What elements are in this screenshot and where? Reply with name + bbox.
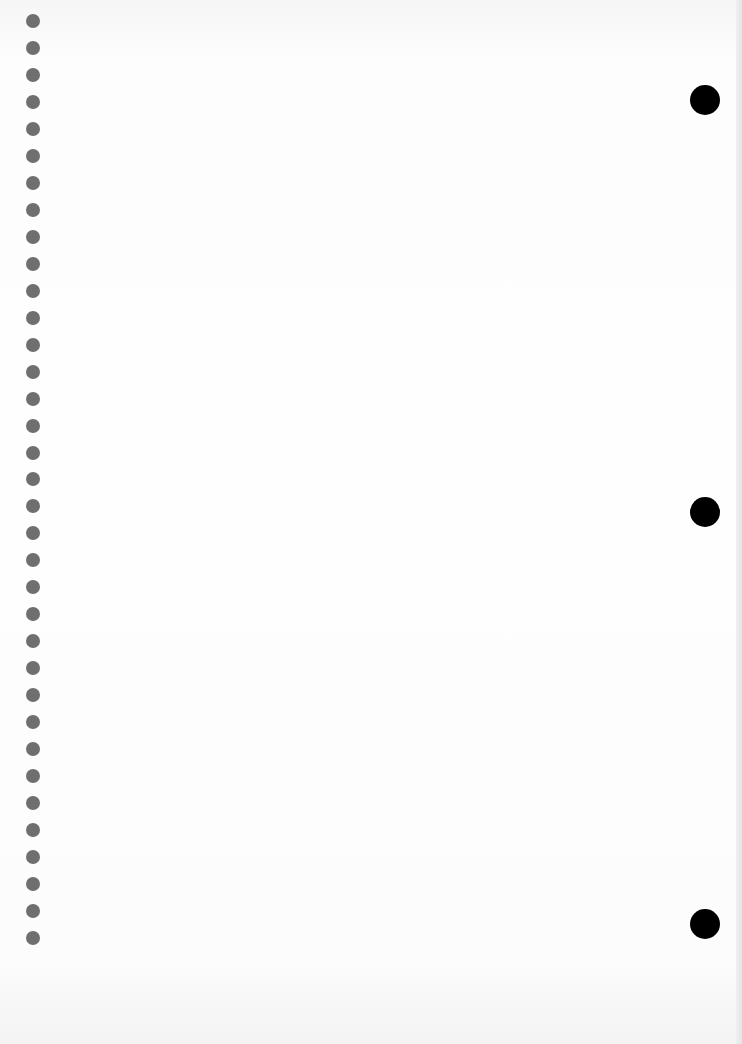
spiral-hole xyxy=(26,688,40,702)
spiral-hole xyxy=(26,203,40,217)
spiral-hole xyxy=(26,742,40,756)
spiral-hole xyxy=(26,311,40,325)
spiral-hole xyxy=(26,41,40,55)
spiral-hole xyxy=(26,661,40,675)
spiral-hole xyxy=(26,122,40,136)
spiral-hole xyxy=(26,419,40,433)
spiral-hole xyxy=(26,499,40,513)
spiral-hole xyxy=(26,769,40,783)
binder-hole xyxy=(690,909,720,939)
page-edge xyxy=(736,0,742,1044)
spiral-hole xyxy=(26,284,40,298)
spiral-hole xyxy=(26,365,40,379)
spiral-hole xyxy=(26,149,40,163)
spiral-hole xyxy=(26,904,40,918)
spiral-hole xyxy=(26,472,40,486)
spiral-hole xyxy=(26,850,40,864)
spiral-hole xyxy=(26,607,40,621)
spiral-hole xyxy=(26,796,40,810)
spiral-hole xyxy=(26,634,40,648)
spiral-hole xyxy=(26,392,40,406)
notebook-page xyxy=(0,0,742,1044)
binder-hole xyxy=(690,85,720,115)
spiral-hole xyxy=(26,526,40,540)
spiral-hole xyxy=(26,580,40,594)
spiral-hole xyxy=(26,553,40,567)
spiral-hole xyxy=(26,230,40,244)
spiral-hole xyxy=(26,446,40,460)
spiral-hole xyxy=(26,257,40,271)
spiral-hole xyxy=(26,176,40,190)
spiral-hole xyxy=(26,68,40,82)
spiral-hole xyxy=(26,931,40,945)
spiral-hole xyxy=(26,715,40,729)
spiral-hole xyxy=(26,95,40,109)
spiral-hole xyxy=(26,338,40,352)
spiral-hole xyxy=(26,823,40,837)
binder-hole xyxy=(690,497,720,527)
spiral-hole xyxy=(26,877,40,891)
spiral-hole xyxy=(26,14,40,28)
